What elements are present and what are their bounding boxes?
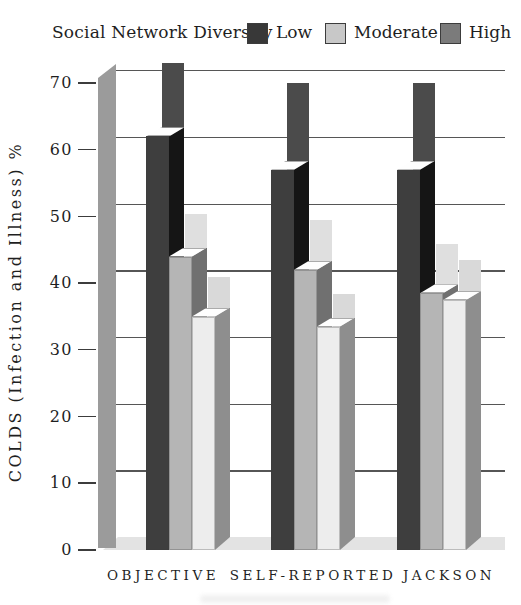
y-axis-title: COLDS (Infection and Illness) % xyxy=(5,87,27,537)
bar-front-moderate-jackson xyxy=(420,293,443,550)
x-label-jackson: JACKSON xyxy=(403,567,495,583)
bar-front-low-self-reported xyxy=(271,170,294,550)
y-tick-label-70: 70 xyxy=(31,74,73,92)
y-tick-40 xyxy=(78,282,96,284)
figure-social-network-diversity-colds: Social Network Diversity LowModerateHigh… xyxy=(0,0,521,605)
bar-front-low-objective xyxy=(146,136,169,550)
y-tick-label-30: 30 xyxy=(31,341,73,359)
y-tick-30 xyxy=(78,349,96,351)
y-tick-50 xyxy=(78,216,96,218)
y-tick-label-20: 20 xyxy=(31,408,73,426)
bar-side-high-self-reported xyxy=(340,318,355,550)
y-tick-label-50: 50 xyxy=(31,208,73,226)
y-tick-label-10: 10 xyxy=(31,474,73,492)
y-tick-60 xyxy=(78,149,96,151)
y-tick-label-40: 40 xyxy=(31,274,73,292)
y-tick-0 xyxy=(78,549,96,551)
y-tick-70 xyxy=(78,82,96,84)
bar-front-moderate-self-reported xyxy=(294,270,317,550)
bar-front-high-self-reported xyxy=(317,327,340,550)
y-tick-10 xyxy=(78,482,96,484)
y-axis-column xyxy=(98,64,116,548)
bar-front-moderate-objective xyxy=(169,257,192,550)
bar-side-high-jackson xyxy=(466,291,481,550)
y-tick-20 xyxy=(78,416,96,418)
chart-area: COLDS (Infection and Illness) % 70605040… xyxy=(0,0,521,605)
y-tick-label-0: 0 xyxy=(31,541,73,559)
bar-front-high-objective xyxy=(192,317,215,550)
x-label-self-reported: SELF-REPORTED xyxy=(230,567,397,583)
y-tick-label-60: 60 xyxy=(31,141,73,159)
bar-side-high-objective xyxy=(215,308,230,550)
bar-front-low-jackson xyxy=(397,170,420,550)
x-label-objective: OBJECTIVE xyxy=(107,567,219,583)
print-bleed-artifact xyxy=(200,595,390,603)
bar-front-high-jackson xyxy=(443,300,466,550)
